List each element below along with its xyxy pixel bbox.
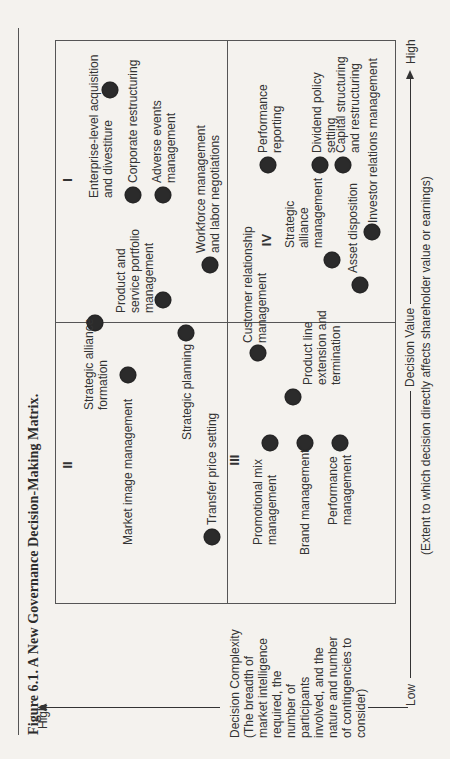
quadrant-label-III: III bbox=[227, 455, 242, 466]
dot-promotional-mix bbox=[262, 435, 279, 452]
dot-performance-reporting bbox=[260, 157, 277, 174]
label-asset-disposition: Asset disposition bbox=[346, 183, 360, 273]
label-market-image: Market image management bbox=[121, 399, 135, 545]
label-adverse-events: Adverse events management bbox=[150, 100, 178, 183]
dot-transfer-price bbox=[204, 529, 221, 546]
dot-adverse-events bbox=[155, 187, 172, 204]
x-axis-line-left bbox=[410, 391, 411, 678]
label-promotional-mix: Promotional mix management bbox=[251, 459, 279, 545]
x-axis-title: Decision Value bbox=[403, 308, 417, 387]
label-brand-management: Brand management bbox=[298, 450, 312, 555]
label-transfer-price: Transfer price setting bbox=[205, 413, 219, 525]
dot-customer-relationship bbox=[250, 345, 267, 362]
y-axis-title: Decision Complexity (The breadth of mark… bbox=[228, 629, 368, 738]
x-axis-arrow-icon bbox=[406, 70, 414, 79]
label-product-service-portfolio: Product and service portfolio management bbox=[114, 229, 156, 313]
dot-product-line-extension bbox=[285, 389, 302, 406]
dot-corporate-restructuring bbox=[125, 187, 142, 204]
dot-investor-relations bbox=[364, 224, 381, 241]
dot-performance-management bbox=[332, 435, 349, 452]
quadrant-label-II: II bbox=[60, 461, 75, 468]
dot-asset-disposition bbox=[352, 277, 369, 294]
label-corporate-restructuring: Corporate restructuring bbox=[126, 60, 140, 183]
label-strategic-alliance-management: Strategic alliance management bbox=[283, 178, 325, 248]
x-axis-low-label: Low bbox=[404, 684, 418, 706]
x-axis-subtitle: (Extent to which decision directly affec… bbox=[419, 176, 433, 555]
x-axis-high-label: High bbox=[404, 39, 418, 64]
label-workforce-management: Workforce management and labor negotiati… bbox=[194, 125, 222, 253]
y-axis-line-lower bbox=[368, 707, 408, 708]
label-enterprise-acquisition: Enterprise-level acquisition and divesti… bbox=[87, 55, 115, 198]
label-performance-reporting: Performance reporting bbox=[256, 84, 284, 153]
label-investor-relations: Investor relations management bbox=[366, 58, 380, 223]
label-product-line-extension: Product line extension and termination bbox=[301, 310, 343, 385]
governance-matrix-figure: Figure 6.1. A New Governance Decision-Ma… bbox=[0, 0, 450, 759]
dot-capital-structuring bbox=[335, 157, 352, 174]
label-capital-structuring: Capital structuring and restructuring bbox=[334, 56, 362, 153]
dot-strategic-planning bbox=[178, 325, 195, 342]
label-performance-management: Performance management bbox=[326, 455, 354, 525]
figure-caption: Figure 6.1. A New Governance Decision-Ma… bbox=[26, 394, 42, 735]
label-strategic-planning: Strategic planning bbox=[180, 344, 194, 440]
x-axis-line-right bbox=[410, 79, 411, 304]
dot-workforce-management bbox=[202, 257, 219, 274]
label-strategic-alliance-formation: Strategic alliance formation bbox=[82, 319, 110, 410]
top-rule bbox=[18, 28, 19, 735]
y-axis-line-upper bbox=[45, 707, 220, 708]
dot-strategic-alliance-management bbox=[324, 252, 341, 269]
dot-market-image bbox=[120, 367, 137, 384]
label-customer-relationship: Customer relationship management bbox=[241, 226, 269, 343]
dot-product-service-portfolio bbox=[155, 292, 172, 309]
dot-dividend-policy bbox=[312, 157, 329, 174]
quadrant-label-I: I bbox=[60, 178, 75, 182]
